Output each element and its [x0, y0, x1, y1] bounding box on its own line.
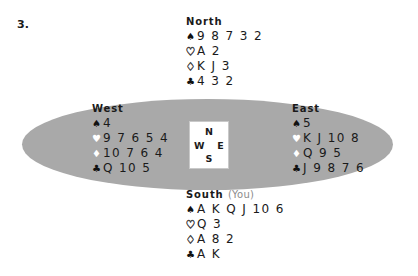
- spade-icon: ♠: [92, 119, 103, 129]
- hand-south-hearts-row: ♥ Q 3: [186, 218, 285, 233]
- hand-south: South (You) ♠ A K Q J 10 6 ♥ Q 3 ♦ A 8 2…: [186, 189, 285, 263]
- hand-north-name: North: [186, 16, 223, 27]
- compass-east-label: E: [217, 140, 224, 151]
- bridge-hand-diagram: 3. N W E S North ♠ 9 8 7 3 2 ♥ A 2 ♦ K J…: [0, 0, 418, 276]
- compass-box: N W E S: [189, 121, 229, 169]
- hand-east-hearts-row: ♥ K J 10 8: [292, 132, 365, 147]
- hand-west-label: West: [92, 103, 169, 114]
- club-icon: ♣: [186, 77, 197, 87]
- hand-north-diamonds-row: ♦ K J 3: [186, 60, 263, 75]
- diamond-icon: ♦: [186, 235, 197, 245]
- club-icon: ♣: [186, 250, 197, 260]
- spade-icon: ♠: [292, 119, 303, 129]
- hand-south-spades-row: ♠ A K Q J 10 6: [186, 203, 285, 218]
- hand-north-diamonds: K J 3: [197, 60, 231, 72]
- hand-south-clubs-row: ♣ A K: [186, 248, 285, 263]
- hand-south-label: South (You): [186, 189, 285, 200]
- hand-south-clubs: A K: [197, 248, 221, 260]
- diamond-icon: ♦: [92, 149, 103, 159]
- diamond-icon: ♦: [292, 149, 303, 159]
- compass-west-label: W: [194, 140, 205, 151]
- hand-north-spades-row: ♠ 9 8 7 3 2: [186, 30, 263, 45]
- hand-north-hearts: A 2: [197, 45, 221, 57]
- hand-west-spades-row: ♠ 4: [92, 117, 169, 132]
- hand-west-name: West: [92, 103, 124, 114]
- hand-west-diamonds: 10 7 6 4: [103, 147, 164, 159]
- heart-icon: ♥: [292, 134, 303, 144]
- hand-east-hearts: K J 10 8: [303, 132, 360, 144]
- hand-north-spades: 9 8 7 3 2: [197, 30, 263, 42]
- hand-west-clubs: Q 10 5: [103, 162, 151, 174]
- hand-east-spades-row: ♠ 5: [292, 117, 365, 132]
- heart-icon: ♥: [186, 47, 197, 57]
- hand-west-spades: 4: [103, 117, 112, 129]
- hand-south-diamonds: A 8 2: [197, 233, 235, 245]
- hand-north-label: North: [186, 16, 263, 27]
- hand-west-clubs-row: ♣ Q 10 5: [92, 162, 169, 177]
- hand-west-hearts-row: ♥ 9 7 6 5 4: [92, 132, 169, 147]
- compass-south-label: S: [205, 153, 212, 164]
- compass-north-label: N: [205, 126, 213, 137]
- spade-icon: ♠: [186, 32, 197, 42]
- hand-north: North ♠ 9 8 7 3 2 ♥ A 2 ♦ K J 3 ♣ 4 3 2: [186, 16, 263, 90]
- hand-east-diamonds: Q 9 5: [303, 147, 342, 159]
- hand-west-hearts: 9 7 6 5 4: [103, 132, 169, 144]
- diamond-icon: ♦: [186, 62, 197, 72]
- hand-east-clubs: J 9 8 7 6: [303, 162, 365, 174]
- club-icon: ♣: [292, 164, 303, 174]
- hand-east-spades: 5: [303, 117, 312, 129]
- hand-south-hearts: Q 3: [197, 218, 222, 230]
- heart-icon: ♥: [92, 134, 103, 144]
- hand-south-diamonds-row: ♦ A 8 2: [186, 233, 285, 248]
- club-icon: ♣: [92, 164, 103, 174]
- hand-east-clubs-row: ♣ J 9 8 7 6: [292, 162, 365, 177]
- hand-south-you-note: (You): [228, 189, 254, 200]
- heart-icon: ♥: [186, 220, 197, 230]
- hand-west-diamonds-row: ♦ 10 7 6 4: [92, 147, 169, 162]
- spade-icon: ♠: [186, 205, 197, 215]
- hand-west: West ♠ 4 ♥ 9 7 6 5 4 ♦ 10 7 6 4 ♣ Q 10 5: [92, 103, 169, 177]
- hand-north-hearts-row: ♥ A 2: [186, 45, 263, 60]
- hand-south-spades: A K Q J 10 6: [197, 203, 285, 215]
- hand-east-diamonds-row: ♦ Q 9 5: [292, 147, 365, 162]
- hand-north-clubs: 4 3 2: [197, 75, 235, 87]
- problem-number: 3.: [17, 18, 29, 31]
- hand-north-clubs-row: ♣ 4 3 2: [186, 75, 263, 90]
- hand-east-name: East: [292, 103, 320, 114]
- hand-east: East ♠ 5 ♥ K J 10 8 ♦ Q 9 5 ♣ J 9 8 7 6: [292, 103, 365, 177]
- hand-south-name: South: [186, 189, 224, 200]
- hand-east-label: East: [292, 103, 365, 114]
